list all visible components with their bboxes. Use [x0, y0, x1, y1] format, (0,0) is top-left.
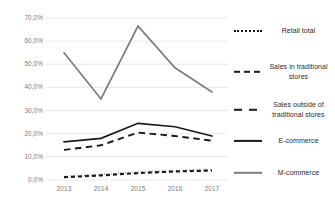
plot-area: 70,0% 60,0% 50,0% 40,0% 30,0% 20,0% 10,0…	[0, 0, 232, 211]
legend-label: M-commerce	[262, 168, 335, 178]
solid-black-line-icon	[234, 136, 262, 146]
legend-item-m-commerce[interactable]: M-commerce	[232, 168, 335, 178]
x-axis-tick-labels: 2013 2014 2015 2016 2017	[0, 0, 232, 211]
legend-label: Sales in traditional stores	[262, 62, 335, 81]
dotted-line-icon	[234, 26, 262, 36]
legend-label: Retail total	[262, 26, 335, 36]
x-tick-label: 2013	[57, 186, 72, 192]
line-chart: 70,0% 60,0% 50,0% 40,0% 30,0% 20,0% 10,0…	[0, 0, 335, 211]
legend-item-sales-in-traditional-stores[interactable]: Sales in traditional stores	[232, 62, 335, 81]
legend-item-e-commerce[interactable]: E-commerce	[232, 136, 335, 146]
chart-legend: Retail total Sales in traditional stores…	[232, 0, 335, 211]
x-tick-label: 2015	[131, 186, 146, 192]
x-tick-label: 2017	[205, 186, 220, 192]
x-tick-label: 2014	[94, 186, 109, 192]
short-dashed-line-icon	[234, 67, 262, 77]
solid-gray-line-icon	[234, 168, 262, 178]
legend-item-sales-outside-traditional-stores[interactable]: Sales outside of traditional stores	[232, 100, 335, 119]
x-tick-label: 2016	[168, 186, 183, 192]
legend-item-retail-total[interactable]: Retail total	[232, 26, 335, 36]
long-dashed-line-icon	[234, 105, 262, 115]
legend-label: Sales outside of traditional stores	[262, 100, 335, 119]
legend-label: E-commerce	[262, 136, 335, 146]
